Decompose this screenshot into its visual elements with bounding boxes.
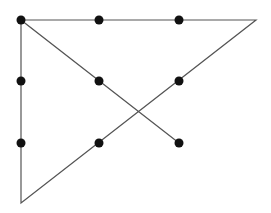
dot [175,16,184,25]
dot [17,77,26,86]
dot [17,139,26,148]
dot [175,139,184,148]
connecting-path [21,20,256,203]
nine-dots-diagram [0,0,271,213]
dot [17,16,26,25]
dot [95,139,104,148]
dot [95,16,104,25]
dot [175,77,184,86]
dot [95,77,104,86]
